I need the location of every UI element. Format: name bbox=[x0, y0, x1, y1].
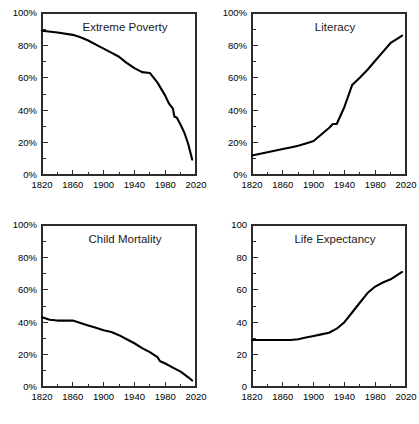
x-axis-tick-label: 1980 bbox=[155, 391, 176, 402]
y-axis-tick-label: 60% bbox=[18, 284, 38, 295]
panel-life-expectancy: 182018601900194019802020020406080100Life… bbox=[210, 212, 419, 424]
y-axis-tick-label: 40% bbox=[18, 317, 38, 328]
x-axis-tick-label: 1900 bbox=[93, 391, 114, 402]
x-axis-tick-label: 1980 bbox=[365, 179, 386, 190]
panel-title: Life Expectancy bbox=[294, 233, 375, 245]
x-axis-tick-label: 2020 bbox=[395, 179, 416, 190]
y-axis-tick-label: 20% bbox=[18, 349, 38, 360]
plot-frame bbox=[252, 225, 406, 387]
y-axis-tick-label: 80 bbox=[236, 252, 247, 263]
y-axis-tick-label: 80% bbox=[228, 40, 248, 51]
data-series-line bbox=[42, 317, 192, 380]
x-axis-tick-label: 1940 bbox=[334, 179, 355, 190]
y-axis-tick-label: 40% bbox=[228, 105, 248, 116]
x-axis-tick-label: 1980 bbox=[365, 391, 386, 402]
x-axis-tick-label: 1860 bbox=[62, 179, 83, 190]
four-panel-chart-figure: 1820186019001940198020200%20%40%60%80%10… bbox=[0, 0, 419, 424]
x-axis-tick-label: 1900 bbox=[303, 391, 324, 402]
x-axis-tick-label: 2020 bbox=[185, 391, 206, 402]
panel-child-mortality: 1820186019001940198020200%20%40%60%80%10… bbox=[0, 212, 209, 424]
x-axis-tick-label: 1940 bbox=[334, 391, 355, 402]
y-axis-tick-label: 80% bbox=[18, 252, 38, 263]
y-axis-tick-label: 20 bbox=[236, 349, 247, 360]
x-axis-tick-label: 1820 bbox=[31, 179, 52, 190]
y-axis-tick-label: 100% bbox=[13, 219, 38, 230]
x-axis-tick-label: 1980 bbox=[155, 179, 176, 190]
x-axis-tick-label: 1900 bbox=[303, 179, 324, 190]
y-axis-tick-label: 0% bbox=[233, 169, 247, 180]
y-axis-tick-label: 0% bbox=[23, 169, 37, 180]
y-axis-tick-label: 100% bbox=[223, 7, 248, 18]
y-axis-tick-label: 100% bbox=[13, 7, 38, 18]
panel-title: Extreme Poverty bbox=[83, 21, 168, 33]
x-axis-tick-label: 1820 bbox=[31, 391, 52, 402]
y-axis-tick-label: 0 bbox=[242, 381, 247, 392]
x-axis-tick-label: 1820 bbox=[241, 391, 262, 402]
panel-title: Literacy bbox=[315, 21, 356, 33]
plot-frame bbox=[42, 13, 196, 175]
data-series-line bbox=[42, 31, 192, 160]
panel-extreme-poverty: 1820186019001940198020200%20%40%60%80%10… bbox=[0, 0, 209, 212]
y-axis-tick-label: 20% bbox=[18, 137, 38, 148]
y-axis-tick-label: 40 bbox=[236, 317, 247, 328]
x-axis-tick-label: 1940 bbox=[124, 179, 145, 190]
panel-title: Child Mortality bbox=[89, 233, 162, 245]
x-axis-tick-label: 1900 bbox=[93, 179, 114, 190]
y-axis-tick-label: 20% bbox=[228, 137, 248, 148]
y-axis-tick-label: 80% bbox=[18, 40, 38, 51]
x-axis-tick-label: 1860 bbox=[272, 179, 293, 190]
x-axis-tick-label: 1860 bbox=[272, 391, 293, 402]
data-series-line bbox=[252, 36, 402, 156]
plot-frame bbox=[42, 225, 196, 387]
y-axis-tick-label: 100 bbox=[231, 219, 247, 230]
data-series-line bbox=[252, 272, 402, 340]
panel-literacy: 1820186019001940198020200%20%40%60%80%10… bbox=[210, 0, 419, 212]
y-axis-tick-label: 40% bbox=[18, 105, 38, 116]
y-axis-tick-label: 60 bbox=[236, 284, 247, 295]
y-axis-tick-label: 0% bbox=[23, 381, 37, 392]
y-axis-tick-label: 60% bbox=[18, 72, 38, 83]
x-axis-tick-label: 1940 bbox=[124, 391, 145, 402]
x-axis-tick-label: 1820 bbox=[241, 179, 262, 190]
x-axis-tick-label: 2020 bbox=[395, 391, 416, 402]
y-axis-tick-label: 60% bbox=[228, 72, 248, 83]
x-axis-tick-label: 1860 bbox=[62, 391, 83, 402]
x-axis-tick-label: 2020 bbox=[185, 179, 206, 190]
